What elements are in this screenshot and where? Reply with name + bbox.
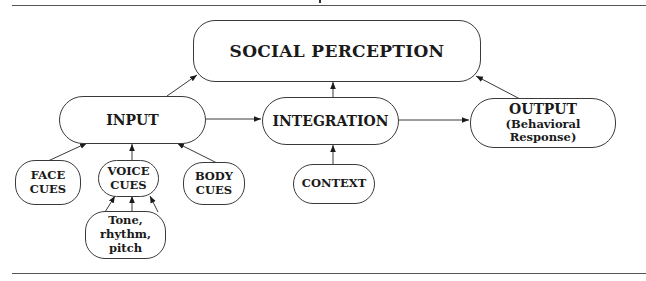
- node-output-sublabel: (Behavioral Response): [471, 118, 615, 146]
- node-voice-cues-line2: CUES: [110, 179, 146, 193]
- node-output-label: OUTPUT: [509, 101, 577, 118]
- node-face-cues-line2: CUES: [30, 183, 66, 197]
- node-input: INPUT: [59, 96, 206, 144]
- node-context-label: CONTEXT: [302, 177, 367, 191]
- node-context: CONTEXT: [293, 164, 375, 204]
- arrow-output-to-social: [476, 76, 520, 99]
- arrow-input-to-social: [167, 75, 197, 96]
- arrow-body-to-input: [177, 143, 217, 163]
- node-voice-cues: VOICE CUES: [98, 160, 159, 197]
- node-body-cues: BODY CUES: [183, 162, 245, 205]
- node-face-cues: FACE CUES: [15, 160, 81, 205]
- node-input-label: INPUT: [106, 112, 159, 129]
- node-voice-features-line2: pitch: [109, 242, 142, 256]
- arrow-tone-to-voice-left: [105, 196, 115, 212]
- node-social-perception-label: SOCIAL PERCEPTION: [230, 41, 445, 61]
- node-voice-features: Tone, rhythm, pitch: [85, 211, 166, 259]
- arrow-face-to-input: [48, 143, 87, 161]
- node-body-cues-line2: CUES: [196, 184, 232, 198]
- node-voice-features-line1: Tone, rhythm,: [86, 214, 165, 242]
- node-integration: INTEGRATION: [262, 97, 399, 145]
- node-face-cues-line1: FACE: [31, 169, 65, 183]
- node-body-cues-line1: BODY: [195, 170, 233, 184]
- node-voice-cues-line1: VOICE: [107, 165, 149, 179]
- node-output: OUTPUT (Behavioral Response): [470, 98, 616, 148]
- node-integration-label: INTEGRATION: [272, 113, 388, 130]
- node-social-perception: SOCIAL PERCEPTION: [193, 20, 481, 82]
- arrow-tone-to-voice-right: [150, 196, 158, 212]
